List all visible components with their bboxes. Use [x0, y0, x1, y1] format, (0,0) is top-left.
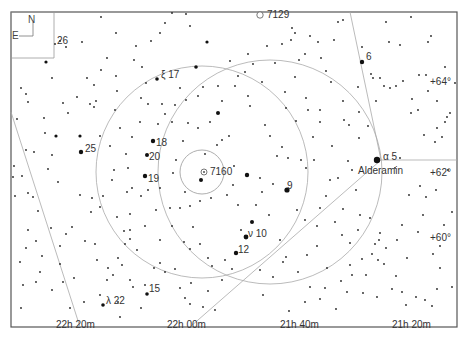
star-icon — [247, 95, 249, 97]
star-icon — [294, 76, 296, 78]
star-icon — [187, 122, 189, 124]
star-icon — [309, 286, 311, 288]
star-icon — [27, 229, 29, 231]
star-icon — [312, 136, 314, 138]
star-icon — [439, 245, 441, 247]
star-icon — [343, 119, 345, 121]
star-icon — [232, 184, 234, 186]
star-icon — [389, 87, 391, 89]
bright-star-icon — [250, 220, 254, 224]
star-icon — [155, 209, 157, 211]
star-icon — [172, 172, 174, 174]
star-icon — [12, 176, 14, 178]
star-icon — [73, 277, 75, 279]
star-icon — [430, 35, 432, 37]
star-icon — [325, 195, 327, 197]
star-icon — [449, 112, 451, 114]
star-icon — [59, 245, 61, 247]
star-icon — [216, 144, 218, 146]
star-icon — [41, 255, 43, 257]
star-icon — [221, 279, 223, 281]
star-icon — [417, 109, 419, 111]
star-label: 20 — [149, 152, 160, 162]
star-name-alderamin: Alderamin — [358, 166, 403, 176]
star-icon — [290, 39, 292, 41]
star-icon — [116, 216, 118, 218]
star-icon — [331, 145, 333, 147]
star-icon — [410, 16, 412, 18]
star-icon — [451, 211, 453, 213]
star-label: 15 — [149, 284, 160, 294]
star-icon — [202, 306, 204, 308]
star-icon — [221, 139, 223, 141]
star-icon — [27, 192, 29, 194]
star-icon — [427, 90, 429, 92]
star-icon — [296, 209, 298, 211]
star-icon — [228, 135, 230, 137]
star-icon — [340, 280, 342, 282]
star-icon — [144, 225, 146, 227]
star-icon — [348, 124, 350, 126]
field-circle-right — [158, 60, 382, 284]
star-icon — [284, 91, 286, 93]
star-icon — [425, 74, 427, 76]
star-label: 19 — [148, 174, 159, 184]
star-icon — [272, 183, 274, 185]
star-icon — [19, 261, 21, 263]
star-icon — [406, 257, 408, 259]
star-icon — [171, 121, 173, 123]
star-icon — [436, 127, 438, 129]
star-icon — [427, 41, 429, 43]
star-icon — [297, 271, 299, 273]
star-icon — [57, 181, 59, 183]
star-label: 18 — [156, 138, 167, 148]
star-icon — [446, 116, 448, 118]
star-icon — [93, 84, 95, 86]
ra-label: 21h 20m — [392, 320, 431, 330]
star-icon — [349, 264, 351, 266]
star-icon — [383, 263, 385, 265]
star-icon — [375, 100, 377, 102]
star-icon — [159, 32, 161, 34]
star-icon — [262, 294, 264, 296]
star-icon — [305, 97, 307, 99]
star-icon — [207, 290, 209, 292]
star-icon — [295, 120, 297, 122]
star-icon — [113, 169, 115, 171]
star-icon — [395, 85, 397, 87]
star-icon — [189, 248, 191, 250]
star-label: 12 — [238, 245, 249, 255]
star-icon — [159, 262, 161, 264]
star-icon — [372, 77, 374, 79]
star-icon — [399, 157, 401, 159]
star-icon — [16, 118, 18, 120]
star-icon — [376, 296, 378, 298]
star-icon — [184, 297, 186, 299]
star-icon — [185, 13, 187, 15]
star-icon — [333, 39, 335, 41]
star-icon — [39, 271, 41, 273]
object-label-ngc7129: 7129 — [267, 10, 289, 20]
star-icon — [204, 153, 206, 155]
dec-label: +64° — [430, 77, 451, 87]
ra-label: 21h 40m — [280, 320, 319, 330]
star-icon — [86, 77, 88, 79]
north-label: N — [28, 15, 35, 25]
star-icon — [418, 74, 420, 76]
bright-star-icon — [199, 178, 203, 182]
star-icon — [319, 109, 321, 111]
star-icon — [214, 309, 216, 311]
star-icon — [304, 53, 306, 55]
star-icon — [233, 165, 235, 167]
star-icon — [346, 291, 348, 293]
star-icon — [121, 264, 123, 266]
star-icon — [69, 307, 71, 309]
star-icon — [237, 75, 239, 77]
bright-star-icon — [44, 60, 47, 63]
star-icon — [281, 146, 283, 148]
star-label: 25 — [85, 144, 96, 154]
star-icon — [20, 87, 22, 89]
dec-label: +62° — [430, 168, 451, 178]
star-label: 26 — [57, 36, 68, 46]
star-icon — [139, 121, 141, 123]
